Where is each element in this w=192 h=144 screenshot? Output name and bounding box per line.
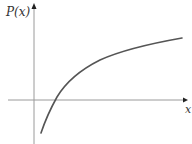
curve-p-of-x	[41, 38, 182, 133]
x-axis-arrow-icon	[183, 98, 188, 103]
x-axis-label: x	[185, 104, 191, 115]
y-axis-arrow-icon	[32, 3, 37, 9]
function-plot	[0, 0, 192, 144]
y-axis-label: P(x)	[6, 6, 30, 18]
